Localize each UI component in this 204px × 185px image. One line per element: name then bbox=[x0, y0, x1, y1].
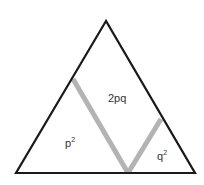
triangle-diagram: p2 2pq q2 bbox=[0, 0, 204, 185]
p-squared-label: p2 bbox=[65, 136, 75, 149]
divider-right bbox=[128, 119, 161, 173]
q-squared-label: q2 bbox=[157, 149, 167, 162]
triangle-outline bbox=[16, 21, 195, 173]
2pq-label: 2pq bbox=[108, 92, 126, 104]
